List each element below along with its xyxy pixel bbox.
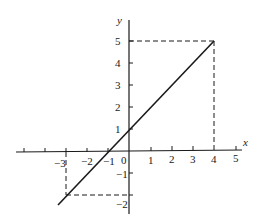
- x-tick-label: 4: [211, 153, 217, 165]
- x-tick-label: 5: [233, 152, 239, 164]
- x-tick-label: −1: [103, 155, 115, 167]
- y-tick-label: 4: [115, 57, 121, 69]
- y-tick-label: −2: [116, 198, 128, 210]
- y-tick-label: 1: [115, 123, 121, 135]
- x-tick-label: 2: [169, 153, 175, 165]
- x-axis-label: x: [242, 136, 248, 148]
- y-ticks: [129, 41, 133, 195]
- line-y-equals-x-plus-1: [58, 41, 214, 205]
- y-tick-label: 3: [115, 79, 121, 91]
- x-tick-label: −3: [54, 157, 66, 169]
- line-chart: y x −3 −2 −1 0 1 2 3 4 5 5 4 3 2 1 −1 −2: [0, 0, 265, 222]
- y-axis-label: y: [116, 14, 122, 26]
- y-tick-label: 5: [115, 35, 121, 47]
- x-tick-label: 3: [190, 153, 196, 165]
- x-tick-label: −2: [81, 155, 93, 167]
- y-tick-label: −1: [116, 168, 128, 180]
- x-tick-label: 1: [148, 154, 154, 166]
- x-tick-label: 0: [121, 154, 127, 166]
- y-tick-label: 2: [115, 101, 121, 113]
